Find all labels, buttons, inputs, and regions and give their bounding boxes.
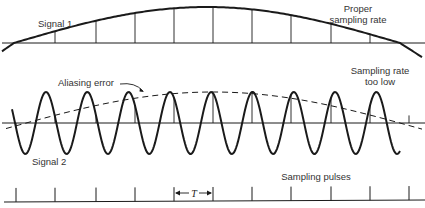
low-rate-label-2: too low bbox=[365, 76, 395, 87]
aliasing-arrowhead-icon bbox=[140, 88, 145, 92]
sampling-pulses-label: Sampling pulses bbox=[281, 171, 351, 182]
left-arrowhead-icon bbox=[175, 191, 180, 196]
period-t-label: T bbox=[191, 188, 198, 199]
signal-2-label: Signal 2 bbox=[32, 156, 66, 167]
proper-rate-label-2: sampling rate bbox=[329, 14, 386, 25]
sampling-diagram: Signal 1 Proper sampling rate Aliasing e… bbox=[0, 0, 425, 208]
signal-1-label: Signal 1 bbox=[38, 18, 72, 29]
proper-rate-label-1: Proper bbox=[344, 3, 373, 14]
bottom-panel bbox=[4, 186, 425, 202]
middle-panel bbox=[2, 92, 425, 154]
low-rate-label-1: Sampling rate bbox=[351, 65, 410, 76]
pulses-baseline bbox=[4, 200, 425, 202]
aliasing-error-curve bbox=[6, 92, 422, 129]
period-dimension: T bbox=[175, 188, 212, 199]
aliasing-pointer-arrow bbox=[120, 84, 143, 91]
right-arrowhead-icon bbox=[207, 191, 212, 196]
aliasing-error-label: Aliasing error bbox=[58, 77, 114, 88]
